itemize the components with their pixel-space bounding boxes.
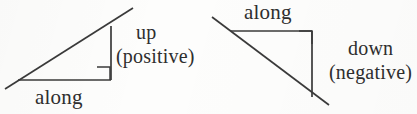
- right-fall-label-line2: (negative): [329, 62, 412, 82]
- right-right-angle-icon: [299, 31, 312, 44]
- left-rise-label-line1: up: [136, 22, 156, 42]
- right-triangle: [212, 17, 329, 105]
- left-base-label: along: [35, 87, 83, 108]
- left-hypotenuse-line: [5, 8, 133, 89]
- right-base-label: along: [244, 2, 292, 23]
- left-rise-label-line2: (positive): [116, 46, 195, 66]
- left-triangle: [5, 8, 133, 89]
- right-fall-label-line1: down: [348, 38, 393, 58]
- left-right-angle-icon: [97, 67, 110, 80]
- slope-direction-figure: along up (positive) along down (negative…: [0, 0, 417, 114]
